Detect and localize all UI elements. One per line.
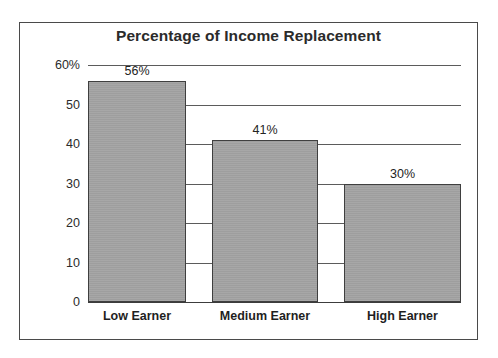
x-axis-line xyxy=(88,302,461,303)
x-tick-label: Medium Earner xyxy=(212,309,318,323)
bar-value-label: 41% xyxy=(212,123,318,137)
bar xyxy=(88,81,186,302)
chart-container: Percentage of Income Replacement 60%5040… xyxy=(0,0,498,358)
y-tick-label: 20 xyxy=(36,216,80,230)
y-tick-label: 10 xyxy=(36,256,80,270)
y-tick-label: 50 xyxy=(36,98,80,112)
plot-area: 56%41%30% xyxy=(88,65,461,302)
y-tick-label: 0 xyxy=(36,295,80,309)
y-tick-label: 40 xyxy=(36,137,80,151)
y-axis-tick-labels: 60%50403020100 xyxy=(32,0,80,358)
chart-title: Percentage of Income Replacement xyxy=(19,27,478,45)
x-tick-label: High Earner xyxy=(344,309,461,323)
y-tick-label: 30 xyxy=(36,177,80,191)
x-tick-label: Low Earner xyxy=(88,309,186,323)
bar xyxy=(344,184,461,303)
bar xyxy=(212,140,318,302)
y-tick-label: 60% xyxy=(36,58,80,72)
bar-value-label: 56% xyxy=(88,64,186,78)
bar-value-label: 30% xyxy=(344,167,461,181)
